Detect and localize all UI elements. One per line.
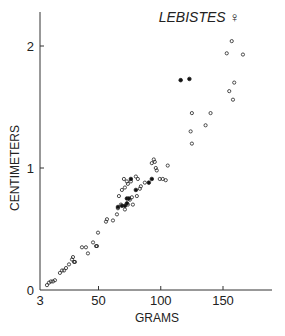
data-point-open <box>111 219 114 222</box>
data-point-open <box>204 124 207 127</box>
data-point-open <box>143 181 146 184</box>
data-point-open <box>189 130 192 133</box>
y-tick-label: 0 <box>27 283 34 298</box>
data-point-open <box>190 142 193 145</box>
data-point-open <box>80 246 83 249</box>
data-point-open <box>120 188 123 191</box>
data-point-open <box>117 194 120 197</box>
x-tick-label: 150 <box>212 293 234 308</box>
data-point-open <box>231 98 234 101</box>
chart-title: LEBISTES ♀ <box>159 9 240 25</box>
data-point-filled <box>188 77 192 81</box>
data-point-open <box>96 231 99 234</box>
data-point-open <box>123 186 126 189</box>
data-point-open <box>230 40 233 43</box>
data-point-open <box>115 213 118 216</box>
data-point-open <box>67 263 70 266</box>
data-point-open <box>209 112 212 115</box>
data-point-open <box>122 177 125 180</box>
data-point-open <box>86 252 89 255</box>
data-point-filled <box>116 205 120 209</box>
data-point-open <box>166 164 169 167</box>
data-point-filled <box>125 202 129 206</box>
x-tick-label: 50 <box>91 293 105 308</box>
data-point-filled <box>127 197 131 201</box>
x-tick-label: 3 <box>36 293 43 308</box>
x-tick-label: 100 <box>150 293 172 308</box>
data-point-open <box>136 177 139 180</box>
data-point-open <box>64 266 67 269</box>
data-point-open <box>241 53 244 56</box>
data-point-filled <box>134 188 138 192</box>
y-axis-title: CENTIMETERS <box>8 125 22 211</box>
data-point-open <box>135 194 138 197</box>
data-point-filled <box>150 177 154 181</box>
data-point-filled <box>147 181 151 185</box>
data-point-filled <box>179 78 183 82</box>
y-tick-label: 2 <box>27 39 34 54</box>
data-point-open <box>190 112 193 115</box>
data-point-open <box>123 208 126 211</box>
data-point-open <box>228 90 231 93</box>
data-point-open <box>131 203 134 206</box>
data-point-open <box>91 241 94 244</box>
x-axis-title: GRAMS <box>135 311 179 325</box>
scatter-chart: LEBISTES ♀ GRAMS CENTIMETERS 35010015001… <box>0 0 285 336</box>
data-point-filled <box>129 177 133 181</box>
data-point-open <box>225 52 228 55</box>
y-tick-label: 1 <box>27 161 34 176</box>
data-point-open <box>84 246 87 249</box>
data-point-open <box>233 81 236 84</box>
